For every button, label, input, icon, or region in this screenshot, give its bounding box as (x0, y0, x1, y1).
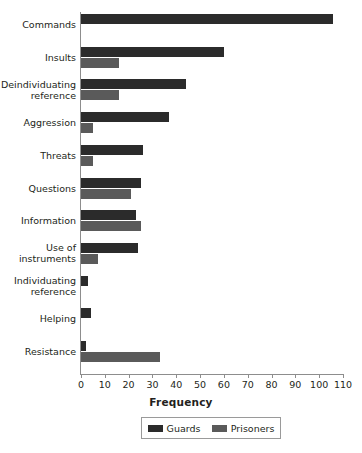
bar-prisoners (81, 254, 98, 264)
x-tick-label: 110 (328, 379, 358, 390)
category-label: Questions (0, 183, 76, 194)
category-label: Use of instruments (0, 242, 76, 264)
legend-item-prisoners: Prisoners (212, 423, 275, 434)
bar-guards (81, 79, 186, 89)
category-label: Individuating reference (0, 275, 76, 297)
bar-guards (81, 210, 136, 220)
bar-guards (81, 145, 143, 155)
bar-guards (81, 112, 169, 122)
bar-guards (81, 308, 91, 318)
category-label: Insults (0, 52, 76, 63)
chart-legend: Guards Prisoners (141, 417, 281, 439)
x-tick (129, 374, 130, 378)
legend-label-prisoners: Prisoners (231, 423, 275, 434)
category-label: Resistance (0, 346, 76, 357)
bar-prisoners (81, 221, 141, 231)
x-tick (81, 374, 82, 378)
legend-swatch-guards-icon (148, 425, 163, 432)
bar-prisoners (81, 189, 131, 199)
x-tick (272, 374, 273, 378)
bar-prisoners (81, 156, 93, 166)
bar-prisoners (81, 90, 119, 100)
x-tick (319, 374, 320, 378)
bar-prisoners (81, 352, 160, 362)
bar-prisoners (81, 58, 119, 68)
legend-item-guards: Guards (148, 423, 201, 434)
bar-guards (81, 243, 138, 253)
x-tick (105, 374, 106, 378)
bar-guards (81, 178, 141, 188)
bar-guards (81, 47, 224, 57)
category-label: Deindividuating reference (0, 79, 76, 101)
x-tick (248, 374, 249, 378)
x-axis-line (80, 374, 344, 375)
x-axis-title: Frequency (0, 396, 362, 408)
legend-swatch-prisoners-icon (212, 425, 227, 432)
x-tick (176, 374, 177, 378)
category-label: Helping (0, 313, 76, 324)
bar-prisoners (81, 123, 93, 133)
bar-chart: CommandsInsultsDeindividuating reference… (0, 0, 362, 453)
legend-label-guards: Guards (167, 423, 201, 434)
bar-guards (81, 276, 88, 286)
bar-guards (81, 341, 86, 351)
x-tick (343, 374, 344, 378)
category-label: Aggression (0, 117, 76, 128)
category-label: Threats (0, 150, 76, 161)
x-tick (224, 374, 225, 378)
category-label: Commands (0, 19, 76, 30)
x-tick (200, 374, 201, 378)
x-tick (295, 374, 296, 378)
x-tick (152, 374, 153, 378)
bar-guards (81, 14, 333, 24)
category-label: Information (0, 215, 76, 226)
